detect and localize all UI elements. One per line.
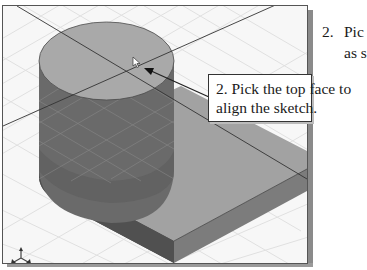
cylinder-top-face (39, 22, 174, 100)
cylinder-boss[interactable] (39, 22, 174, 223)
callout-line-1: 2. Pick the top face to (216, 79, 311, 98)
callout-line-2: align the sketch. (216, 98, 311, 117)
step-line-2: as s (322, 42, 367, 63)
step-number: 2. (322, 21, 344, 42)
callout-box: 2. Pick the top face to align the sketch… (208, 74, 312, 122)
model-scene[interactable] (3, 6, 307, 263)
step-line-1: Pic (344, 23, 364, 40)
graphics-viewport[interactable] (2, 5, 308, 264)
instruction-step: 2.Pic as s (322, 21, 367, 63)
view-triad-icon[interactable] (9, 246, 33, 264)
